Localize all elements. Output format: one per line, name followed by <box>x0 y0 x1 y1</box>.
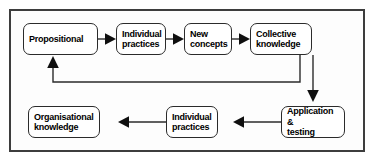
node-application-testing-label: Application & testing <box>287 106 341 138</box>
node-organisational-knowledge-label: Organisational knowledge <box>34 112 94 133</box>
node-collective-knowledge[interactable]: Collective knowledge <box>250 23 312 55</box>
node-organisational-knowledge[interactable]: Organisational knowledge <box>28 106 100 138</box>
node-individual-practices-bottom[interactable]: Individual practices <box>166 106 218 138</box>
node-propositional[interactable]: Propositional <box>23 23 98 55</box>
node-collective-knowledge-label: Collective knowledge <box>256 29 300 50</box>
node-application-testing[interactable]: Application & testing <box>281 106 345 138</box>
diagram-canvas: Propositional Individual practices New c… <box>0 0 379 164</box>
node-new-concepts[interactable]: New concepts <box>184 23 232 55</box>
node-individual-practices-top[interactable]: Individual practices <box>116 23 166 55</box>
node-propositional-label: Propositional <box>29 34 83 45</box>
node-individual-practices-bottom-label: Individual practices <box>172 112 212 133</box>
node-individual-practices-top-label: Individual practices <box>122 29 162 50</box>
node-new-concepts-label: New concepts <box>190 29 228 50</box>
